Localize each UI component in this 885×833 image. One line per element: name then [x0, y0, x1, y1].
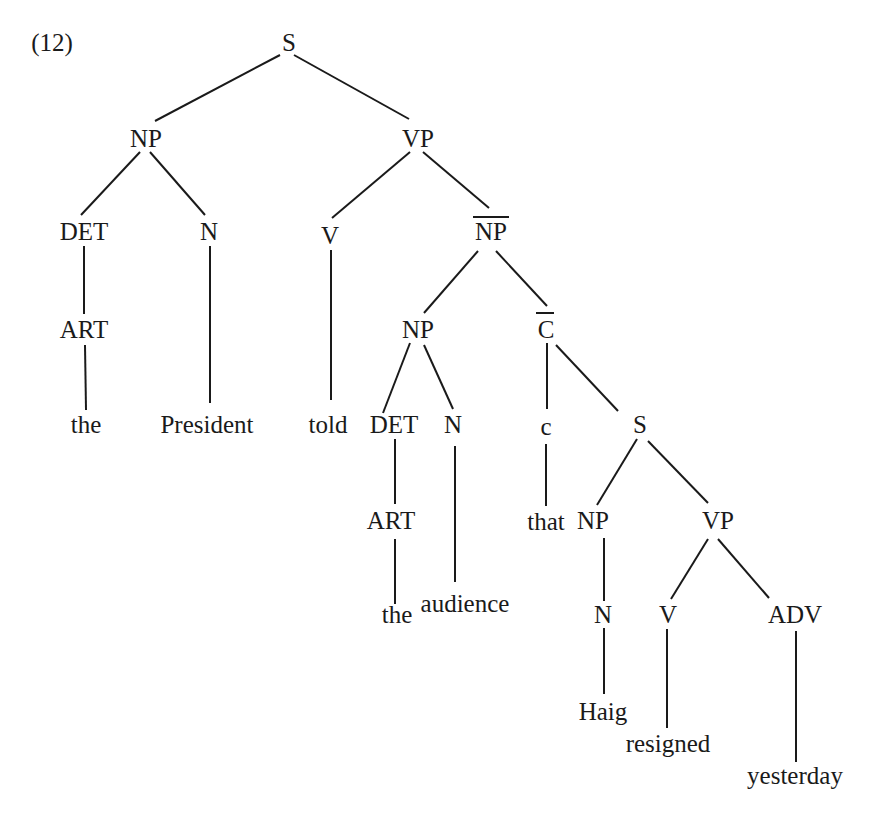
tree-edge-s2-np3	[597, 439, 637, 505]
terminal-word-w_told: told	[309, 411, 348, 438]
tree-edge-np1-n1	[150, 152, 205, 215]
tree-edges	[81, 55, 796, 762]
tree-node-n1: N	[200, 218, 218, 245]
tree-node-n2: N	[444, 411, 462, 438]
tree-edge-vp2-adv1	[718, 539, 769, 598]
tree-edge-npbar-cbar	[496, 251, 547, 306]
tree-node-npbar: NP	[475, 218, 507, 245]
tree-node-c1: c	[540, 413, 551, 440]
tree-edge-s1-vp1	[294, 55, 409, 119]
tree-node-vp1: VP	[402, 125, 434, 152]
tree-node-vp2: VP	[702, 507, 734, 534]
example-number: (12)	[31, 29, 73, 57]
terminal-word-w_the2: the	[382, 601, 413, 628]
terminal-word-w_the1: the	[71, 411, 102, 438]
tree-node-art1: ART	[60, 316, 109, 343]
tree-node-n3: N	[594, 601, 612, 628]
tree-node-np1: NP	[130, 125, 162, 152]
tree-node-v2: V	[659, 601, 677, 628]
tree-edge-npbar-np2	[424, 251, 478, 313]
tree-node-det2: DET	[370, 411, 419, 438]
tree-node-s1: S	[282, 29, 296, 56]
tree-edge-s1-np1	[155, 55, 280, 121]
tree-edge-vp1-npbar	[423, 152, 489, 208]
terminal-word-w_haig: Haig	[579, 698, 628, 725]
tree-node-det1: DET	[60, 218, 109, 245]
tree-edge-np2-det2	[383, 343, 410, 413]
tree-node-np2: NP	[402, 316, 434, 343]
terminal-word-w_res: resigned	[626, 730, 711, 757]
tree-edge-art1-w_the1	[85, 345, 86, 410]
terminal-word-w_that: that	[527, 508, 565, 535]
tree-edge-np2-n2	[424, 345, 453, 409]
tree-node-adv1: ADV	[768, 601, 822, 628]
syntax-tree-diagram: (12) SNPVPDETNVNPARTNPCthePresidenttoldD…	[0, 0, 885, 833]
tree-edge-vp2-v2	[671, 539, 708, 599]
tree-nodes: SNPVPDETNVNPARTNPCthePresidenttoldDETNcS…	[60, 29, 844, 789]
tree-node-art2: ART	[367, 507, 416, 534]
tree-node-s2: S	[633, 411, 647, 438]
tree-edge-cbar-s2	[556, 345, 618, 411]
tree-node-np3: NP	[577, 507, 609, 534]
tree-node-v1: V	[321, 222, 339, 249]
tree-edge-np1-det1	[81, 152, 140, 215]
tree-edge-vp1-v1	[332, 152, 410, 218]
tree-node-cbar: C	[538, 316, 555, 343]
terminal-word-w_pres: President	[160, 411, 253, 438]
terminal-word-w_yest: yesterday	[747, 762, 843, 789]
tree-edge-s2-vp2	[648, 441, 708, 503]
terminal-word-w_aud: audience	[421, 590, 510, 617]
